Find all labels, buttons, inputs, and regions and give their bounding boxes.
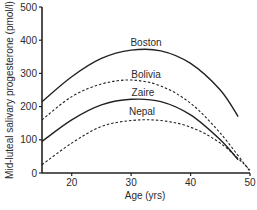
series-nepal-line	[42, 120, 250, 170]
y-tick-label: 300	[20, 68, 37, 79]
x-tick-label: 50	[244, 177, 256, 188]
series-label-boston: Boston	[130, 37, 161, 48]
line-chart: 010020030040050020304050 BostonBoliviaZa…	[0, 0, 257, 210]
y-axis-label: Mid-luteal salivary progesterone (pmol/l…	[4, 1, 15, 179]
x-tick-label: 30	[126, 177, 138, 188]
series-label-nepal: Nepal	[129, 106, 155, 117]
series-label-zaire: Zaire	[132, 87, 155, 98]
y-tick-label: 100	[20, 134, 37, 145]
x-tick-label: 20	[66, 177, 78, 188]
series-label-bolivia: Bolivia	[131, 69, 161, 80]
y-tick-label: 0	[31, 168, 37, 179]
x-axis-label: Age (yrs)	[125, 190, 166, 201]
y-tick-label: 500	[20, 2, 37, 13]
y-tick-label: 400	[20, 35, 37, 46]
y-tick-label: 200	[20, 101, 37, 112]
x-tick-label: 40	[185, 177, 197, 188]
